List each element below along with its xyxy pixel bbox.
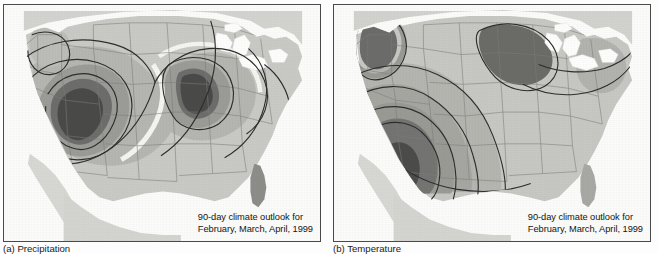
figure-label-temperature: (b) Temperature [333,243,401,254]
map-caption-line-2: February, March, April, 1999 [528,224,643,235]
panel-frame-temperature: 90-day climate outlook for February, Mar… [333,4,651,242]
panel-frame-precipitation: 90-day climate outlook for February, Mar… [3,4,321,242]
map-caption-line-1: 90-day climate outlook for [528,212,643,223]
panel-temperature: 90-day climate outlook for February, Mar… [333,4,651,242]
map-caption-line-2: February, March, April, 1999 [198,224,313,235]
map-stage-precipitation [4,5,320,241]
map-caption-precipitation: 90-day climate outlook for February, Mar… [198,212,313,235]
panel-precipitation: 90-day climate outlook for February, Mar… [3,4,321,242]
map-stage-temperature [334,5,650,241]
figure-label-precipitation: (a) Precipitation [3,243,70,254]
map-caption-temperature: 90-day climate outlook for February, Mar… [528,212,643,235]
temperature-map-graphic [334,5,650,241]
map-caption-line-1: 90-day climate outlook for [198,212,313,223]
precipitation-map-graphic [4,5,320,241]
